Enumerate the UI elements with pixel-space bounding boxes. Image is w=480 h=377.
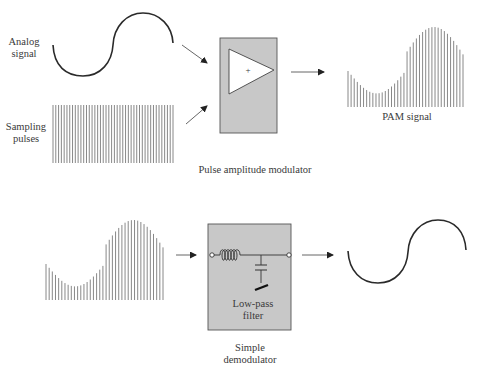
pam-input-pulses (46, 220, 163, 300)
sampling-pulses (53, 105, 173, 163)
label-analog-signal: Analog signal (2, 36, 46, 60)
label-sampling-pulses: Sampling pulses (2, 121, 50, 145)
label-demodulator: Simple demodulator (215, 342, 285, 366)
analog-signal-wave (53, 13, 173, 76)
label-filter: Low-pass filter (228, 298, 278, 322)
arrow-pulses-to-modulator (186, 106, 207, 124)
amplifier-plus-symbol: + (242, 64, 254, 76)
label-pam-signal: PAM signal (372, 111, 442, 123)
arrow-analog-to-modulator (182, 45, 207, 63)
label-modulator: Pulse amplitude modulator (180, 164, 330, 176)
pam-signal-pulses (348, 27, 463, 107)
recovered-signal-wave (348, 220, 466, 283)
